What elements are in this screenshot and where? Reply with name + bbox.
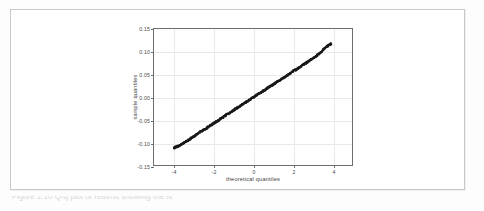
x-axis-tick-label: 4 (332, 169, 335, 175)
x-axis-title: theoretical quantiles (153, 176, 353, 182)
x-axis-tick-label: 2 (292, 169, 295, 175)
x-axis-tick (334, 165, 335, 168)
y-axis-tick-label: 0.15 (139, 26, 150, 32)
figure-caption-partial: Figure 2.10 Q-q plot of returns showing … (12, 196, 312, 205)
x-axis-tick (254, 165, 255, 168)
plot-axes-frame: -0.15-0.10-0.050.000.050.100.15-4-2024 (153, 28, 353, 166)
document-page: sample quantiles -0.15-0.10-0.050.000.05… (0, 0, 484, 211)
x-axis-tick-label: -4 (172, 169, 177, 175)
figure-caption-text: Figure 2.10 Q-q plot of returns showing … (12, 196, 312, 201)
figure-card: sample quantiles -0.15-0.10-0.050.000.05… (10, 9, 465, 190)
qq-plot: sample quantiles -0.15-0.10-0.050.000.05… (11, 10, 466, 191)
y-axis-tick-label: 0.10 (139, 49, 150, 55)
x-axis-tick (214, 165, 215, 168)
x-axis-tick (294, 165, 295, 168)
x-axis-title-label: theoretical quantiles (226, 176, 280, 182)
data-point (330, 42, 332, 44)
y-axis-tick (151, 52, 154, 53)
y-axis-tick-label: 0.05 (139, 72, 150, 78)
x-axis-tick-label: 0 (252, 169, 255, 175)
x-axis-tick (174, 165, 175, 168)
y-axis-tick (151, 121, 154, 122)
y-axis-tick-label: 0.00 (139, 95, 150, 101)
y-axis-tick (151, 29, 154, 30)
y-axis-title-label: sample quantiles (132, 74, 138, 119)
y-axis-tick-label: -0.15 (137, 164, 150, 170)
x-axis-tick-label: -2 (212, 169, 217, 175)
y-axis-tick-label: -0.05 (137, 118, 150, 124)
y-axis-tick (151, 144, 154, 145)
y-axis-tick (151, 98, 154, 99)
y-axis-tick-label: -0.10 (137, 141, 150, 147)
y-axis-tick (151, 75, 154, 76)
y-axis-tick (151, 167, 154, 168)
data-series-layer (154, 29, 352, 165)
